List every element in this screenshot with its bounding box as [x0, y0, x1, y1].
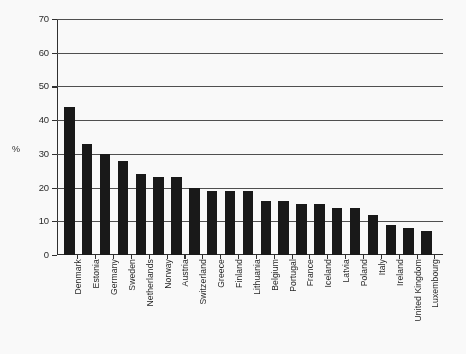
bar — [332, 208, 342, 255]
bar — [350, 208, 360, 255]
bar — [225, 191, 235, 255]
bar — [261, 201, 271, 255]
x-axis-category-label: Iceland — [323, 259, 333, 287]
bar — [314, 204, 324, 255]
x-axis-category-label: Poland — [359, 259, 369, 286]
y-axis-tick-label: 10 — [23, 215, 49, 226]
bar — [189, 188, 199, 255]
x-axis-category-label: Norway — [163, 259, 173, 289]
x-axis-category-label: Germany — [109, 259, 119, 295]
x-axis-category-label: Luxembourg — [430, 259, 440, 308]
bar — [368, 215, 378, 255]
bar — [171, 177, 181, 255]
bar — [403, 228, 413, 255]
x-axis-category-label: Switzerland — [198, 259, 208, 305]
bar — [136, 174, 146, 255]
gridline — [57, 120, 443, 121]
bar-chart: % 010203040506070 DenmarkEstoniaGermanyS… — [0, 0, 466, 354]
bar — [100, 154, 110, 255]
bar — [82, 144, 92, 255]
gridline — [57, 53, 443, 54]
y-axis-tick-mark — [52, 188, 57, 189]
y-axis-tick-label: 0 — [23, 249, 49, 260]
x-axis-category-label: Netherlands — [145, 259, 155, 306]
bar — [296, 204, 306, 255]
gridline — [57, 188, 443, 189]
y-axis-tick-label: 30 — [23, 148, 49, 159]
bar — [118, 161, 128, 255]
y-axis-tick-label: 40 — [23, 114, 49, 125]
bar — [64, 107, 74, 255]
y-axis-tick-label: 50 — [23, 80, 49, 91]
y-axis-tick-mark — [52, 154, 57, 155]
bar — [243, 191, 253, 255]
x-axis-category-label: Portugal — [288, 259, 298, 292]
x-axis-category-label: United Kingdom — [413, 259, 423, 322]
y-axis-tick-mark — [52, 255, 57, 256]
x-axis-category-label: Sweden — [127, 259, 137, 291]
y-axis-tick-mark — [52, 86, 57, 87]
y-axis-tick-mark — [52, 120, 57, 121]
y-axis-line — [57, 19, 58, 255]
x-axis-category-label: Italy — [377, 259, 387, 275]
y-axis-tick-mark — [52, 19, 57, 20]
x-axis-category-label: France — [305, 259, 315, 286]
x-axis-category-label: Finland — [234, 259, 244, 288]
plot-area — [57, 19, 443, 255]
y-axis-tick-label: 60 — [23, 47, 49, 58]
gridline — [57, 86, 443, 87]
y-axis-tick-mark — [52, 221, 57, 222]
x-axis-category-label: Belgium — [270, 259, 280, 291]
gridline — [57, 154, 443, 155]
gridline — [57, 19, 443, 20]
x-axis-category-label: Denmark — [73, 259, 83, 295]
bar — [153, 177, 163, 255]
bar — [421, 231, 431, 255]
x-axis-category-label: Estonia — [91, 259, 101, 288]
y-axis-tick-label: 70 — [23, 13, 49, 24]
x-axis-category-label: Latvia — [341, 259, 351, 283]
y-axis-tick-label: 20 — [23, 182, 49, 193]
x-axis-category-label: Austria — [180, 259, 190, 286]
x-axis-category-label: Greece — [216, 259, 226, 288]
y-axis-tick-mark — [52, 53, 57, 54]
bar — [386, 225, 396, 255]
bar — [278, 201, 288, 255]
x-axis-category-label: Lithuania — [252, 259, 262, 295]
x-axis-category-label: Ireland — [395, 259, 405, 286]
bar — [207, 191, 217, 255]
y-axis-title: % — [12, 144, 20, 154]
